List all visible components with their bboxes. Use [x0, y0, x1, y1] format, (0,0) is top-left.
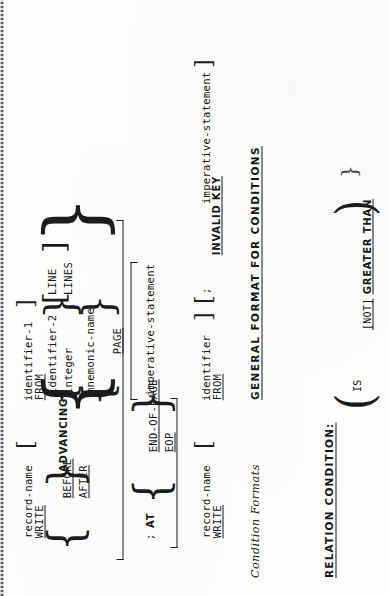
open-paren-relational-operator: ( [330, 394, 380, 410]
close-brace-mnemonic-page: } [76, 295, 118, 319]
invalid-key-separator: ; [200, 287, 211, 294]
scanned-page-viewport: WRITE record-name [ FROM identifier-1 ] … [0, 0, 389, 596]
invalid-key-imperative-statement: imperative-statement [200, 72, 211, 204]
at-eop-option: EOP [152, 432, 184, 492]
write-format1-operand: record-name [22, 465, 33, 538]
close-bracket-from-1: ] [14, 299, 36, 308]
write-format2-from-operand: identifier [200, 335, 211, 401]
at-clause-separator: ; [144, 533, 155, 540]
close-bracket-invalid-key: ] [192, 59, 214, 68]
write-format2-operand: record-name [200, 465, 211, 538]
optional-bracket-imperative-statement-top [130, 262, 137, 400]
condition-formats-caption: Condition Formats [248, 464, 261, 578]
scan-edge-artifact [0, 0, 3, 596]
close-brace-advancing-group: } [34, 196, 114, 244]
relation-condition-subheading: RELATION CONDITION: [322, 422, 334, 578]
optional-bracket-advancing-clause [116, 220, 123, 560]
general-format-conditions-heading: GENERAL FORMAT FOR CONDITIONS [248, 146, 260, 400]
at-clause-keyword: AT [145, 513, 155, 528]
clipped-brace-fragment: } [338, 165, 358, 178]
relational-operator-is: IS [352, 379, 362, 392]
optional-bracket-at-clause [170, 398, 177, 548]
at-clause-imperative-statement: imperative-statement [144, 264, 155, 396]
open-bracket-from-2: [ [192, 440, 214, 449]
close-bracket-from-2: ] [192, 312, 214, 321]
advancing-lines-option: LINES [62, 262, 73, 295]
manual-page-sheet: WRITE record-name [ FROM identifier-1 ] … [0, 0, 389, 596]
open-brace-advancing-group: { [34, 370, 114, 418]
open-bracket-invalid-key: [ [192, 295, 214, 304]
close-paren-relational-operator: ) [330, 200, 380, 216]
open-bracket-from-1: [ [14, 440, 36, 449]
relational-operator-greater-than: GREATER THAN [352, 199, 382, 320]
advancing-line-option: LINE [46, 269, 57, 296]
